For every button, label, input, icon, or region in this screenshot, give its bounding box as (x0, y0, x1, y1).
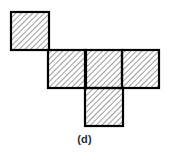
figure-caption: (d) (0, 132, 169, 146)
cell-r0c0 (11, 12, 49, 50)
cell-r1c1 (48, 50, 86, 88)
cell-r2c2 (85, 88, 123, 126)
figure-container: (d) (0, 0, 169, 160)
cell-r1c2 (85, 50, 122, 88)
cell-r1c3 (122, 50, 159, 88)
